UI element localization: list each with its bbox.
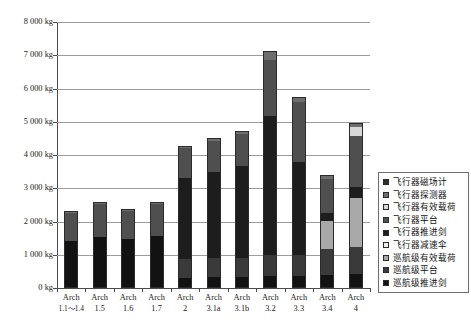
bar-stack[interactable] — [121, 209, 135, 288]
bar-segment[interactable] — [320, 213, 334, 221]
bar-segment[interactable] — [292, 102, 306, 162]
bar-segment[interactable] — [207, 172, 221, 258]
y-axis-tick — [53, 122, 57, 123]
bar-segment[interactable] — [263, 60, 277, 117]
bar-segment[interactable] — [93, 237, 107, 288]
chart-legend: 飞行器磁场计飞行器探测器飞行器有效载荷飞行器平台飞行器推进剑飞行器减速伞巡航级有… — [378, 172, 469, 293]
legend-item-label: 巡航级平台 — [393, 266, 438, 275]
legend-swatch-icon — [383, 204, 389, 210]
y-axis-tick-label: 3 000 kg — [1, 184, 53, 192]
bar-segment[interactable] — [150, 236, 164, 288]
bar-segment[interactable] — [263, 255, 277, 276]
bar-segment[interactable] — [263, 52, 277, 60]
legend-item-label: 飞行器平台 — [393, 216, 438, 225]
bar-stack[interactable] — [150, 202, 164, 288]
bar-stack[interactable] — [235, 131, 249, 288]
x-axis-category-label: Arch1.1～1.4 — [57, 293, 85, 314]
bar-segment[interactable] — [235, 134, 249, 166]
bar-segment[interactable] — [178, 259, 192, 278]
bar-segment[interactable] — [292, 162, 306, 255]
legend-swatch-icon — [383, 179, 389, 185]
bar-segment[interactable] — [349, 127, 363, 136]
bar-segment[interactable] — [121, 239, 135, 288]
y-axis-tick-label: 1 000 kg — [1, 251, 53, 259]
y-axis-tick — [53, 22, 57, 23]
legend-item[interactable]: 巡航级有效载荷 — [383, 252, 465, 265]
chart-figure: 8 000 kg7 000 kg6 000 kg5 000 kg4 000 kg… — [0, 0, 471, 330]
plot-area: 8 000 kg7 000 kg6 000 kg5 000 kg4 000 kg… — [57, 22, 370, 288]
bar-stack[interactable] — [320, 175, 334, 288]
bar-stack[interactable] — [349, 123, 363, 288]
bar-segment[interactable] — [207, 258, 221, 277]
bar-segment[interactable] — [292, 255, 306, 276]
x-axis-category-label: Arch3.1a — [199, 293, 227, 314]
x-axis-line — [57, 288, 371, 289]
gridline — [57, 55, 370, 56]
x-axis-tick — [57, 288, 58, 292]
bar-segment[interactable] — [349, 136, 363, 187]
bar-segment[interactable] — [178, 278, 192, 288]
legend-item[interactable]: 巡航级推进剑 — [383, 277, 465, 290]
bar-segment[interactable] — [178, 148, 192, 178]
bar-segment[interactable] — [235, 258, 249, 277]
bar-segment[interactable] — [320, 275, 334, 288]
x-axis-tick — [370, 288, 371, 292]
bar-stack[interactable] — [263, 51, 277, 288]
legend-item[interactable]: 飞行器减速伞 — [383, 239, 465, 252]
bar-segment[interactable] — [178, 178, 192, 259]
bar-segment[interactable] — [320, 179, 334, 213]
legend-item[interactable]: 飞行器探测器 — [383, 189, 465, 202]
y-axis-tick-label: 6 000 kg — [1, 85, 53, 93]
bar-segment[interactable] — [64, 213, 78, 241]
legend-item[interactable]: 飞行器推进剑 — [383, 226, 465, 239]
x-axis-category-label: Arch2 — [171, 293, 199, 314]
legend-item-label: 巡航级有效载荷 — [393, 254, 456, 263]
x-axis-category-label: Arch1.6 — [114, 293, 142, 314]
bar-segment[interactable] — [349, 247, 363, 274]
x-axis-category-label: Arch1.5 — [85, 293, 113, 314]
legend-item[interactable]: 飞行器有效载荷 — [383, 201, 465, 214]
legend-item[interactable]: 巡航级平台 — [383, 264, 465, 277]
y-axis-tick-label: 2 000 kg — [1, 218, 53, 226]
x-axis-tick — [313, 288, 314, 292]
bar-segment[interactable] — [207, 277, 221, 288]
x-axis-category-label: Arch3.4 — [313, 293, 341, 314]
bar-segment[interactable] — [207, 141, 221, 172]
y-axis-tick-label: 8 000 kg — [1, 18, 53, 26]
x-axis-category-label: Arch3.3 — [285, 293, 313, 314]
x-axis-category-label: Arch4 — [342, 293, 370, 314]
x-axis-tick — [285, 288, 286, 292]
bar-stack[interactable] — [207, 138, 221, 288]
bar-stack[interactable] — [178, 146, 192, 288]
bar-segment[interactable] — [93, 204, 107, 237]
bar-segment[interactable] — [150, 204, 164, 236]
bar-segment[interactable] — [349, 198, 363, 248]
bar-segment[interactable] — [349, 274, 363, 288]
bar-segment[interactable] — [235, 277, 249, 288]
legend-item[interactable]: 飞行器磁场计 — [383, 176, 465, 189]
legend-swatch-icon — [383, 280, 389, 286]
legend-item-label: 巡航级推进剑 — [393, 279, 447, 288]
legend-item-label: 飞行器磁场计 — [393, 178, 447, 187]
y-axis-tick-label: 7 000 kg — [1, 51, 53, 59]
bar-segment[interactable] — [235, 166, 249, 258]
bar-segment[interactable] — [121, 211, 135, 239]
bar-segment[interactable] — [292, 276, 306, 288]
y-axis-tick-label: 0 kg — [1, 284, 53, 292]
y-axis-tick-label: 4 000 kg — [1, 151, 53, 159]
bar-segment[interactable] — [320, 221, 334, 250]
x-axis-tick — [142, 288, 143, 292]
x-axis-tick — [199, 288, 200, 292]
bar-segment[interactable] — [64, 241, 78, 288]
bar-segment[interactable] — [349, 187, 363, 198]
bar-segment[interactable] — [320, 249, 334, 274]
bar-segment[interactable] — [263, 276, 277, 288]
bar-stack[interactable] — [93, 202, 107, 288]
bar-stack[interactable] — [292, 97, 306, 288]
y-axis-tick — [53, 188, 57, 189]
y-axis-tick — [53, 89, 57, 90]
bar-segment[interactable] — [263, 116, 277, 255]
legend-item[interactable]: 飞行器平台 — [383, 214, 465, 227]
y-axis-tick — [53, 255, 57, 256]
bar-stack[interactable] — [64, 211, 78, 288]
